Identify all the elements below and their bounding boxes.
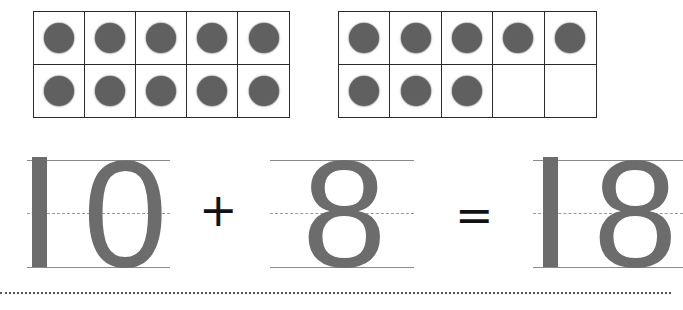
counter-dot-icon [95, 23, 125, 53]
ten-frame-cell [442, 65, 493, 118]
counter-dot-icon [452, 23, 482, 53]
counter-dot-icon [44, 76, 74, 106]
ten-frame-cell [187, 12, 238, 65]
counter-dot-icon [401, 76, 431, 106]
ten-frame-cell [339, 12, 390, 65]
ten-frame-cell [339, 65, 390, 118]
counter-dot-icon [146, 76, 176, 106]
ten-frame-cell [85, 65, 136, 118]
counter-dot-icon [197, 76, 227, 106]
plus-sign: + [199, 187, 238, 233]
digit-ones: 0 [83, 140, 168, 288]
digit-one-stroke [543, 157, 558, 267]
counter-dot-icon [249, 76, 279, 106]
ten-frame-cell [545, 12, 596, 65]
counter-dot-icon [249, 23, 279, 53]
counter-dot-icon [452, 76, 482, 106]
counter-dot-icon [401, 23, 431, 53]
ten-frame-cell [34, 65, 85, 118]
ten-frame-cell [136, 12, 187, 65]
counter-dot-icon [555, 23, 585, 53]
counter-dot-icon [44, 23, 74, 53]
counter-dot-icon [503, 23, 533, 53]
dotted-separator [0, 292, 671, 294]
ten-frame-cell-empty [493, 65, 544, 118]
digit-ones: 8 [593, 140, 678, 288]
equals-sign: = [455, 192, 494, 238]
counter-dot-icon [197, 23, 227, 53]
ten-frame-cell [238, 12, 289, 65]
ten-frame-cell [34, 12, 85, 65]
counter-dot-icon [146, 23, 176, 53]
counter-dot-icon [349, 23, 379, 53]
ten-frame-cell [390, 12, 441, 65]
ten-frame-cell [85, 12, 136, 65]
ten-frame-cell [493, 12, 544, 65]
counter-dot-icon [349, 76, 379, 106]
number-sum: 8 [533, 140, 683, 280]
digit-one-stroke [32, 157, 47, 267]
ten-frame-cell [238, 65, 289, 118]
ten-frame-cell [390, 65, 441, 118]
number-addend-2: 8 [270, 140, 414, 280]
ten-frame-cell [442, 12, 493, 65]
ten-frame-left [33, 11, 290, 118]
digit-ones: 8 [302, 140, 387, 288]
number-addend-1: 0 [27, 140, 170, 280]
counter-dot-icon [95, 76, 125, 106]
ten-frame-right [338, 11, 597, 118]
ten-frame-cell [136, 65, 187, 118]
ten-frame-cell [187, 65, 238, 118]
ten-frame-cell-empty [545, 65, 596, 118]
